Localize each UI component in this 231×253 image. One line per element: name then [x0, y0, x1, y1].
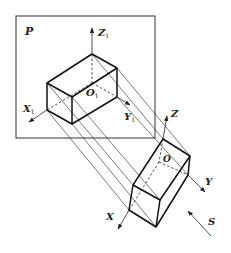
projected-box — [47, 54, 117, 124]
projected-axes — [29, 28, 130, 122]
x-label: X — [105, 211, 115, 222]
o1-label: O1 — [86, 87, 99, 99]
y-label: Y — [205, 176, 213, 187]
plane-label: P — [24, 25, 34, 38]
x1-label: X1 — [22, 103, 35, 115]
x-axis — [118, 210, 129, 229]
s-label: S — [208, 216, 215, 227]
projection-diagram: P Z1 X1 Y1 O1 Z O Y X S — [0, 0, 231, 253]
z-label: Z — [170, 108, 179, 119]
y-axis — [188, 175, 205, 192]
z1-label: Z1 — [97, 27, 109, 39]
y1-label: Y1 — [124, 111, 135, 123]
o-label: O — [163, 154, 171, 164]
projection-rays — [47, 54, 190, 227]
object-box — [129, 139, 190, 227]
